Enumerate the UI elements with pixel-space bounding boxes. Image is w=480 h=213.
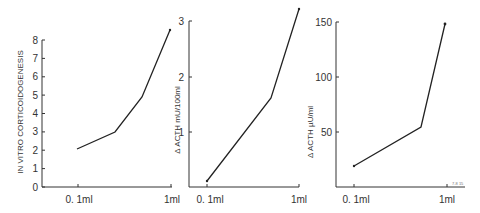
y-tick: 150	[315, 17, 332, 28]
x-tick-high: 1ml	[164, 194, 180, 205]
y-tick: 3	[178, 16, 184, 27]
x-tick-high: 1ml	[291, 194, 307, 205]
y-axis-label: Δ ACTH mU/100ml	[173, 86, 182, 154]
data-line	[354, 24, 445, 166]
y-tick: 7	[32, 53, 38, 64]
y-tick: 4	[32, 108, 38, 119]
chart-acth-mu: 3 2 1 Δ ACTH mU/100ml 0. 1ml 1ml	[173, 8, 307, 205]
data-line	[207, 9, 299, 181]
y-tick: 50	[321, 127, 333, 138]
y-tick: 2	[178, 72, 184, 83]
y-axis-label: IN VITRO CORTICOIDOGENESIS	[16, 50, 25, 173]
y-tick: 8	[32, 35, 38, 46]
y-tick: 5	[32, 90, 38, 101]
chart-corticoidogenesis: 0 1 2 3 4 5 6 7 8 IN VITRO CORTICOIDOGEN…	[16, 29, 180, 205]
y-tick: 100	[315, 72, 332, 83]
x-tick-low: 0. 1ml	[342, 194, 369, 205]
corner-mark: 7-8 15	[452, 181, 464, 186]
y-tick: 6	[32, 71, 38, 82]
chart-acth-uu: 150 100 50 Δ ACTH µU/ml 0. 1ml 1ml 7-8 1…	[306, 17, 465, 206]
y-tick: 2	[32, 145, 38, 156]
y-axis-label: Δ ACTH µU/ml	[306, 106, 315, 158]
x-tick-low: 0. 1ml	[65, 194, 92, 205]
y-tick: 1	[32, 163, 38, 174]
x-tick-low: 0. 1ml	[196, 194, 223, 205]
y-tick: 0	[32, 182, 38, 193]
chart-figure: 0 1 2 3 4 5 6 7 8 IN VITRO CORTICOIDOGEN…	[0, 0, 480, 213]
y-tick: 3	[32, 126, 38, 137]
data-line	[77, 30, 170, 149]
x-tick-high: 1ml	[439, 194, 455, 205]
